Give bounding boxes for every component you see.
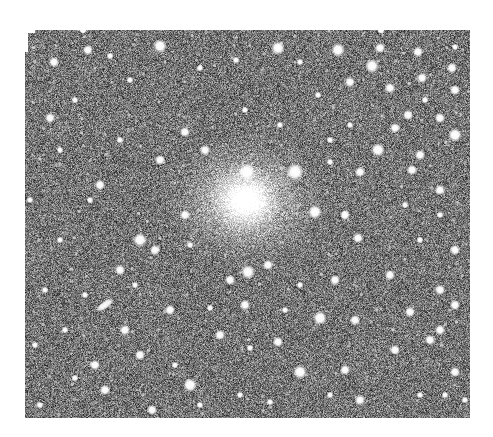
plate-edge-notch <box>23 30 28 52</box>
star-field-canvas <box>23 30 470 418</box>
plate-edge-notch <box>23 30 35 33</box>
page <box>0 0 493 437</box>
plate-edge-notch <box>23 52 25 418</box>
star-field-photograph <box>23 30 470 418</box>
